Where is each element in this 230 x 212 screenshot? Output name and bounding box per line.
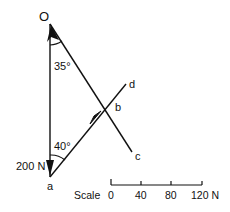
label-point-d: d — [129, 78, 135, 90]
label-point-o: O — [39, 9, 49, 24]
angle-arc-top — [50, 41, 62, 45]
line-ob-c — [50, 24, 132, 152]
label-angle-top: 35° — [54, 60, 71, 72]
scale-label: Scale — [74, 189, 100, 201]
label-angle-bottom: 40° — [54, 140, 71, 152]
scale-tick-40: 40 — [135, 189, 147, 201]
label-point-c: c — [135, 150, 141, 162]
line-ab-d — [50, 84, 126, 177]
angle-arc-bottom — [50, 155, 65, 160]
scale-bar — [111, 179, 202, 185]
scale-tick-120: 120 N — [191, 189, 219, 201]
force-diagram: O 35° d b 40° 200 N c a Scale 0 40 80 12… — [0, 0, 230, 212]
scale-tick-80: 80 — [165, 189, 177, 201]
label-point-b: b — [115, 101, 121, 113]
label-point-a: a — [47, 180, 54, 192]
label-force: 200 N — [16, 160, 45, 172]
scale-tick-0: 0 — [108, 189, 114, 201]
